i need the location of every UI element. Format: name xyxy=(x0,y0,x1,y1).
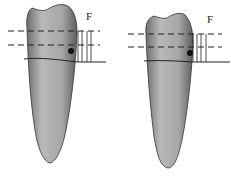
right-tooth-figure xyxy=(128,13,230,168)
right-marker-dot xyxy=(187,50,193,56)
right-force-label: F xyxy=(207,14,213,25)
left-tooth xyxy=(27,5,77,163)
left-tooth-figure xyxy=(8,5,106,163)
left-marker-dot xyxy=(68,48,74,54)
left-measure-bars xyxy=(78,31,91,62)
left-force-label: F xyxy=(86,11,92,22)
diagram-canvas xyxy=(0,0,231,190)
right-tooth xyxy=(146,13,193,168)
right-measure-bars xyxy=(193,34,206,62)
